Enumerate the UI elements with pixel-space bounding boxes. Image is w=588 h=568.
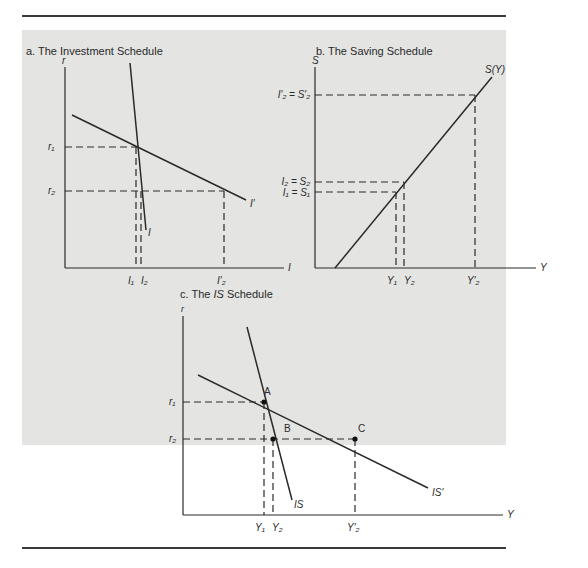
panel-is-schedule: c. The IS Schedule r Y IS IS′ A B C r₁ r…	[169, 288, 515, 533]
tick-r1: r₁	[169, 396, 175, 407]
tick-Y2: Y₂	[404, 275, 415, 286]
tick-I2: I₂	[141, 275, 148, 286]
curve-IS-label: IS	[294, 499, 304, 510]
panel-c-x-axis-label: Y	[507, 509, 515, 520]
panel-a-x-axis-label: I	[288, 262, 291, 273]
tick-I2-equals-S2: I₂ = S₂	[282, 176, 311, 187]
tick-Y2: Y₂	[272, 522, 283, 533]
tick-I2-prime-equals-S2-prime: I′₂ = S′₂	[278, 89, 310, 100]
panel-b-x-axis-label: Y	[540, 262, 548, 273]
curve-S-of-Y	[335, 77, 492, 268]
panel-investment-schedule: a. The Investment Schedule r I I I′ r₁ r…	[26, 45, 291, 286]
point-C-marker	[352, 436, 357, 441]
tick-r1: r₁	[48, 141, 54, 152]
tick-Y1: Y₁	[255, 522, 265, 533]
tick-I2-prime: I′₂	[217, 275, 226, 286]
point-B-label: B	[284, 423, 291, 434]
panel-c-title: c. The IS Schedule	[180, 288, 273, 300]
panel-c-guides	[183, 402, 355, 515]
figure-canvas: a. The Investment Schedule r I I I′ r₁ r…	[0, 0, 588, 568]
panel-a-title: a. The Investment Schedule	[26, 45, 163, 57]
curve-I-prime	[72, 115, 246, 200]
tick-I1-equals-S1: I₁ = S₁	[283, 187, 310, 198]
curve-IS-prime-label: IS′	[432, 487, 444, 498]
point-A-marker	[261, 399, 266, 404]
tick-Y2-prime: Y′₂	[467, 275, 480, 286]
tick-r2: r₂	[169, 433, 176, 444]
tick-Y1: Y₁	[387, 275, 397, 286]
tick-r2: r₂	[48, 185, 55, 196]
curve-S-of-Y-label: S(Y)	[485, 64, 505, 75]
curve-IS-prime	[198, 375, 428, 488]
point-B-marker	[270, 436, 275, 441]
panel-b-guides	[315, 95, 475, 268]
tick-I1: I₁	[128, 275, 134, 286]
bottom-rule	[22, 547, 506, 549]
point-A-label: A	[264, 386, 271, 397]
tick-Y2-prime: Y′₂	[347, 522, 360, 533]
curve-I-label: I	[148, 227, 151, 238]
curve-IS	[247, 327, 292, 500]
panel-b-y-axis-label: S	[312, 55, 319, 66]
panel-saving-schedule: b. The Saving Schedule S Y S(Y) I′₂ = S′…	[278, 45, 548, 286]
point-C-label: C	[358, 423, 365, 434]
curve-I-prime-label: I′	[250, 198, 256, 209]
panel-b-title: b. The Saving Schedule	[316, 45, 433, 57]
panel-c-y-axis-label: r	[181, 304, 185, 314]
